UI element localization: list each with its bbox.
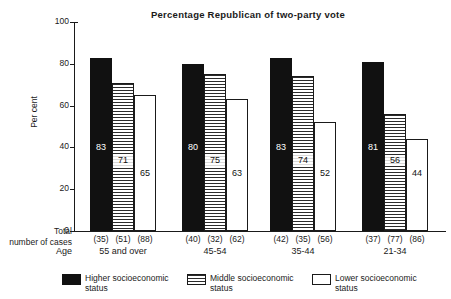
case-count-label: (32): [204, 234, 226, 244]
y-axis-label: Per cent: [29, 96, 39, 128]
legend-swatch-middle: [187, 274, 206, 285]
legend-label: Middle socioeconomicstatus: [210, 273, 294, 293]
y-axis-tick: 100: [74, 22, 79, 23]
y-axis-tick-mark: [70, 64, 75, 65]
bar-value-label: 52: [315, 169, 335, 178]
bar-lower[interactable]: 52: [314, 122, 336, 231]
bar-higher[interactable]: 83: [270, 58, 292, 231]
y-axis-tick-label: 80: [60, 58, 69, 68]
case-count-label: (42): [270, 234, 292, 244]
y-axis-tick: 80: [74, 64, 79, 65]
case-count-label: (56): [314, 234, 336, 244]
bar-lower[interactable]: 63: [226, 99, 248, 231]
age-group-label: 45-54: [182, 246, 248, 256]
bar-higher[interactable]: 81: [362, 62, 384, 231]
bar-value-label: 56: [385, 155, 405, 166]
case-count-label: (35): [90, 234, 112, 244]
case-count-label: (40): [182, 234, 204, 244]
legend-swatch-lower: [312, 274, 331, 285]
y-axis-tick-mark: [70, 22, 75, 23]
bar-value-label: 63: [227, 169, 247, 178]
legend-label: Higher socioeconomicstatus: [85, 273, 169, 293]
legend-label-line-2: status: [210, 283, 294, 293]
bar-chart-figure: Percentage Republican of two-party vote …: [0, 0, 451, 299]
plot-area: 020406080100 837165807563837452815644 (3…: [74, 22, 446, 232]
case-count-label: (35): [292, 234, 314, 244]
bar-middle[interactable]: 71: [112, 83, 134, 231]
bar-higher[interactable]: 80: [182, 64, 204, 231]
case-count-label: (88): [134, 234, 156, 244]
y-axis-tick-mark: [70, 147, 75, 148]
bar-value-label: 44: [407, 169, 427, 178]
x-axis-baseline: [74, 231, 446, 232]
total-cases-line-1: Total: [2, 226, 72, 237]
legend-label-line-2: status: [85, 283, 169, 293]
bar-lower[interactable]: 65: [134, 95, 156, 231]
legend-label: Lower socioeconomicstatus: [335, 273, 417, 293]
y-axis-tick-mark: [70, 106, 75, 107]
case-count-label: (51): [112, 234, 134, 244]
y-axis-tick: 20: [74, 189, 79, 190]
y-axis-line: [74, 22, 75, 232]
bar-lower[interactable]: 44: [406, 139, 428, 231]
y-axis-tick: 60: [74, 106, 79, 107]
bar-value-label: 65: [135, 169, 155, 178]
bar-higher[interactable]: 83: [90, 58, 112, 231]
case-count-label: (62): [226, 234, 248, 244]
legend-item-higher[interactable]: Higher socioeconomicstatus: [62, 273, 169, 293]
age-group-label: 35-44: [270, 246, 336, 256]
y-axis-tick-mark: [70, 231, 75, 232]
bar-value-label: 75: [205, 155, 225, 166]
legend: Higher socioeconomicstatusMiddle socioec…: [62, 273, 451, 297]
legend-label-line-1: Higher socioeconomic: [85, 273, 169, 283]
case-count-label: (77): [384, 234, 406, 244]
age-group-label: 21-34: [362, 246, 428, 256]
legend-label-line-1: Lower socioeconomic: [335, 273, 417, 283]
y-axis-tick: 0: [74, 231, 79, 232]
legend-label-line-1: Middle socioeconomic: [210, 273, 294, 283]
bar-middle[interactable]: 74: [292, 76, 314, 231]
bar-value-label: 83: [91, 143, 111, 152]
bar-value-label: 74: [293, 155, 313, 166]
y-axis-tick-mark: [70, 189, 75, 190]
bar-value-label: 81: [363, 143, 383, 152]
legend-item-lower[interactable]: Lower socioeconomicstatus: [312, 273, 417, 293]
legend-item-middle[interactable]: Middle socioeconomicstatus: [187, 273, 294, 293]
legend-label-line-2: status: [335, 283, 417, 293]
total-number-of-cases-label: Total number of cases: [2, 226, 72, 248]
legend-swatch-higher: [62, 274, 81, 285]
age-axis-label: Age: [2, 246, 72, 256]
bar-middle[interactable]: 75: [204, 74, 226, 231]
y-axis-tick-label: 100: [55, 16, 69, 26]
case-count-label: (86): [406, 234, 428, 244]
y-axis-tick-label: 60: [60, 100, 69, 110]
bar-middle[interactable]: 56: [384, 114, 406, 231]
chart-title: Percentage Republican of two-party vote: [128, 9, 368, 20]
y-axis-tick-label: 0: [64, 225, 69, 235]
y-axis-tick-label: 40: [60, 141, 69, 151]
bar-value-label: 71: [113, 155, 133, 166]
bar-value-label: 83: [271, 143, 291, 152]
y-axis-tick-label: 20: [60, 183, 69, 193]
bar-value-label: 80: [183, 143, 203, 152]
case-count-label: (37): [362, 234, 384, 244]
age-group-label: 55 and over: [90, 246, 156, 256]
y-axis-tick: 40: [74, 147, 79, 148]
